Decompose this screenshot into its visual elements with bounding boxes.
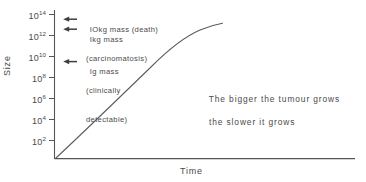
annotation-arrows xyxy=(63,17,77,65)
exponent: 8 xyxy=(43,72,46,79)
y-tick-label-10e4: 104 xyxy=(27,115,46,126)
exponent: 12 xyxy=(39,30,46,37)
y-tick-label-10e2: 102 xyxy=(27,136,46,147)
tumour-growth-chart: 1014 1012 1010 108 106 104 102 Size Time… xyxy=(0,0,366,182)
y-tick-label-10e6: 106 xyxy=(27,94,46,105)
annotation-clinically-detectable-label: Ig mass (clinically detectable) xyxy=(80,57,127,143)
caption-line1: The bigger the tumour grows xyxy=(209,94,340,104)
y-tick-label-10e12: 1012 xyxy=(24,31,46,42)
x-axis-title: Time xyxy=(180,166,203,176)
annotation-clinical-line1: Ig mass xyxy=(90,67,119,76)
exponent: 14 xyxy=(39,9,46,16)
annotation-carcinomatosis-line1: Ikg mass xyxy=(90,35,123,44)
caption-line2: the slower it grows xyxy=(209,117,295,127)
y-axis-ticks xyxy=(49,15,55,141)
left-arrow-icon-carcinomatosis xyxy=(63,27,77,32)
y-tick-label-10e10: 1010 xyxy=(24,52,46,63)
exponent: 10 xyxy=(39,51,46,58)
left-arrow-icon-death xyxy=(63,17,77,22)
y-axis-title: Size xyxy=(2,55,12,76)
exponent: 6 xyxy=(43,93,46,100)
chart-caption: The bigger the tumour grows the slower i… xyxy=(196,82,340,140)
exponent: 2 xyxy=(43,135,46,142)
y-tick-label-10e14: 1014 xyxy=(24,10,46,21)
annotation-clinical-line3: detectable) xyxy=(80,115,127,125)
left-arrow-icon-clinically-detectable xyxy=(63,59,77,64)
annotation-clinical-line2: (clinically xyxy=(80,86,127,96)
y-tick-label-10e8: 108 xyxy=(27,73,46,84)
exponent: 4 xyxy=(43,114,46,121)
